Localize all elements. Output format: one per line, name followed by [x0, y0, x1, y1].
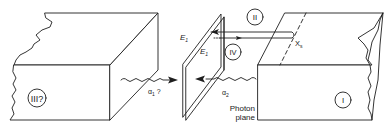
region-iv-marker: IV — [225, 44, 241, 60]
region-ii-marker: II — [247, 9, 263, 25]
photon-plane-label-line2: plane — [235, 113, 255, 122]
photon-plane-diagram: III? α1 ? E1 E1 II I — [0, 0, 391, 132]
alpha2-wave: α2 — [195, 76, 256, 98]
photon-plane-label-line1: Photon — [230, 104, 255, 113]
alpha2-wavy-line — [206, 78, 256, 81]
alpha2-label: α2 — [222, 89, 229, 98]
region-iii-label: III? — [31, 94, 44, 104]
alpha1-label: α1 ? — [148, 88, 161, 97]
e1-outer-label: E1 — [180, 33, 188, 43]
left-block — [10, 13, 158, 120]
left-block-front-face — [10, 65, 110, 120]
right-block — [258, 13, 383, 120]
region-ii-label: II — [253, 13, 257, 22]
right-block-front-face — [258, 65, 372, 120]
region-iv-label: IV — [229, 48, 236, 57]
region-i-label: I — [342, 96, 344, 105]
alpha2-arrowhead-icon — [195, 76, 205, 83]
right-block-top-face — [258, 13, 383, 65]
photon-plane-outer-sheet — [183, 14, 221, 117]
e1-inner-label: E1 — [200, 47, 208, 57]
